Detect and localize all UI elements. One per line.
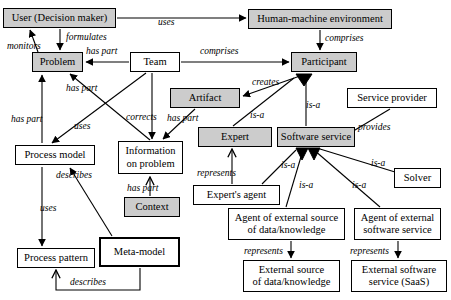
- edge-label-l-uses-hme: uses: [158, 17, 174, 27]
- edge-label-l-haspart-prob2: has part: [66, 83, 97, 93]
- node-infoproblem[interactable]: Information on problem: [118, 141, 183, 174]
- edge-label-l-haspart-ctx: has part: [127, 183, 158, 193]
- edge-label-l-represents-ext: represents: [244, 246, 283, 256]
- node-label: Context: [135, 201, 168, 213]
- edge-label-l-isa-sw: is-a: [306, 100, 320, 110]
- edge-label-l-creates: creates: [252, 77, 279, 87]
- node-participant[interactable]: Participant: [291, 52, 357, 72]
- node-context[interactable]: Context: [124, 197, 180, 217]
- node-extsw[interactable]: External software service (SaaS): [351, 260, 447, 292]
- triangle-participant-isa: [296, 74, 312, 86]
- diagram-canvas: User (Decision maker)Human-machine envir…: [0, 0, 451, 300]
- node-label: Human-machine environment: [257, 13, 383, 25]
- node-label: External source of data/knowledge: [253, 264, 331, 289]
- edge-label-l-isa-solver: is-a: [371, 158, 385, 168]
- edge-label-l-formulates: formulates: [66, 32, 107, 42]
- edge-label-l-describes-pm: describes: [56, 170, 92, 180]
- node-artifact[interactable]: Artifact: [170, 88, 240, 108]
- edge-label-l-comprises-hme: comprises: [325, 33, 364, 43]
- node-solver[interactable]: Solver: [394, 168, 441, 188]
- edge-label-l-haspart-art: has part: [167, 113, 198, 123]
- node-label: Software service: [281, 131, 351, 143]
- triangle-swservice-isa-left: [296, 148, 308, 160]
- edge-label-l-isa-ea: is-a: [281, 160, 295, 170]
- edge-label-l-describes-mm: describes: [70, 277, 106, 287]
- node-processpattern[interactable]: Process pattern: [17, 248, 95, 268]
- edge-label-l-isa-sw2: is-a: [352, 180, 366, 190]
- edge-label-l-corrects: corrects: [126, 112, 157, 122]
- node-extsource[interactable]: External source of data/knowledge: [243, 260, 340, 292]
- node-label: Agent of external source of data/knowled…: [235, 212, 339, 237]
- node-label: Team: [143, 56, 166, 68]
- node-label: Meta-model: [114, 246, 165, 258]
- node-label: Expert: [221, 131, 249, 143]
- node-label: Process model: [25, 149, 86, 161]
- edge-label-l-monitors: monitors: [7, 41, 41, 51]
- edge-label-l-isa-expert: is-a: [250, 110, 264, 120]
- edge-label-l-uses-pp: uses: [40, 203, 56, 213]
- node-label: Process pattern: [24, 252, 88, 264]
- node-expertagent[interactable]: Expert's agent: [193, 185, 280, 205]
- node-label: Information on problem: [125, 145, 175, 170]
- edge-label-l-provides: provides: [358, 122, 390, 132]
- node-expert[interactable]: Expert: [198, 127, 272, 147]
- node-label: Artifact: [189, 92, 222, 104]
- node-label: Participant: [301, 56, 347, 68]
- node-team[interactable]: Team: [130, 52, 180, 72]
- node-label: User (Decision maker): [12, 12, 108, 24]
- edge-label-l-isa-ext: is-a: [299, 180, 313, 190]
- node-provider[interactable]: Service provider: [347, 88, 437, 108]
- edge-label-l-represents-sw: represents: [350, 246, 389, 256]
- node-label: Problem: [40, 56, 76, 68]
- edge-label-l-haspart-prob3: has part: [11, 114, 42, 124]
- node-label: External software service (SaaS): [362, 264, 436, 289]
- node-agentsw[interactable]: Agent of external software service: [354, 208, 441, 240]
- generalization-triangles: [296, 74, 320, 160]
- node-user[interactable]: User (Decision maker): [3, 8, 116, 28]
- edge-label-l-haspart-team: has part: [86, 46, 117, 56]
- node-label: Agent of external software service: [361, 212, 434, 237]
- node-label: Expert's agent: [207, 189, 266, 201]
- node-problem[interactable]: Problem: [32, 52, 83, 72]
- node-agentext[interactable]: Agent of external source of data/knowled…: [228, 208, 345, 240]
- edge-label-l-uses-pm: uses: [74, 121, 90, 131]
- node-hme[interactable]: Human-machine environment: [248, 9, 392, 29]
- node-metamodel[interactable]: Meta-model: [99, 237, 180, 267]
- node-label: Service provider: [357, 92, 427, 104]
- node-processmodel[interactable]: Process model: [15, 145, 95, 165]
- edge-agentext-isa-swservice: [286, 150, 303, 207]
- node-label: Solver: [404, 172, 431, 184]
- edge-label-l-represents-ea: represents: [197, 168, 236, 178]
- edge-label-l-comprises-team: comprises: [200, 46, 239, 56]
- node-swservice[interactable]: Software service: [277, 127, 355, 147]
